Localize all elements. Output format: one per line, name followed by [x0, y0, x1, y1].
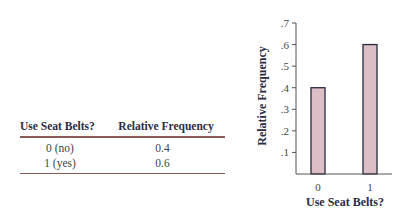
x-tick-label: 1	[367, 181, 373, 193]
y-tick-label: .7	[281, 17, 290, 29]
y-axis-title: Relative Frequency	[255, 46, 269, 145]
bar-chart: .1.2.3.4.5.6.7 01 Use Seat Belts? Relati…	[0, 0, 415, 212]
y-tick-label: .4	[281, 82, 290, 94]
x-tick-label: 0	[315, 181, 321, 193]
y-tick-label: .6	[281, 39, 290, 51]
bar-1	[363, 45, 377, 174]
y-tick-label: .5	[281, 60, 290, 72]
y-tick-label: .1	[281, 146, 289, 158]
x-axis-title: Use Seat Belts?	[306, 195, 384, 209]
y-tick-label: .2	[281, 125, 289, 137]
bar-0	[311, 88, 325, 174]
y-tick-label: .3	[281, 103, 290, 115]
